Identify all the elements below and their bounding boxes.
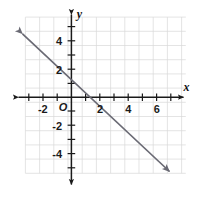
x-tick-label-4: 4	[125, 103, 132, 115]
x-tick-label-neg2: -2	[38, 103, 48, 115]
y-tick-label-neg2: -2	[52, 120, 62, 132]
x-tick-label-6: 6	[154, 103, 160, 115]
origin-label: O	[59, 101, 68, 113]
y-tick-label-2: 2	[56, 64, 62, 76]
coordinate-plane-figure: -2 2 4 6 4 2 -2 -4 O x y	[0, 0, 201, 198]
x-tick-label-2: 2	[97, 103, 103, 115]
x-axis-label: x	[183, 80, 190, 94]
grid-lines	[25, 17, 185, 173]
y-axis-label: y	[75, 7, 83, 21]
y-tick-label-4: 4	[56, 35, 63, 47]
graph-canvas: -2 2 4 6 4 2 -2 -4 O x y	[0, 0, 201, 198]
y-tick-label-neg4: -4	[52, 148, 63, 160]
